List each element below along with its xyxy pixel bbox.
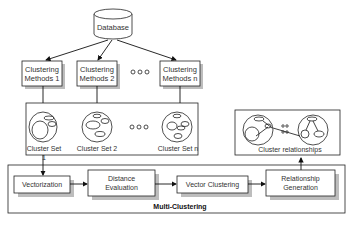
step-distance-evaluation: DistanceEvaluation bbox=[88, 174, 155, 192]
cluster-set-n-label: Cluster Set n bbox=[156, 144, 200, 153]
cluster-set-1-label: Cluster Set 1 bbox=[24, 144, 64, 162]
step-relationship-generation: RelationshipGeneration bbox=[266, 174, 335, 192]
method-2-label: ClusteringMethods 2 bbox=[77, 65, 117, 83]
method-1-label: ClusteringMethods 1 bbox=[22, 65, 62, 83]
db-arrows bbox=[46, 40, 176, 60]
cluster-set-2-label: Cluster Set 2 bbox=[74, 144, 120, 153]
step-vectorization: Vectorization bbox=[14, 180, 70, 189]
step-vector-clustering: Vector Clustering bbox=[177, 180, 248, 189]
multi-clustering-title: Multi-Clustering bbox=[140, 202, 220, 211]
method-n-label: ClusteringMethods n bbox=[160, 65, 200, 83]
database-label: Database bbox=[94, 23, 132, 32]
relationships-label: Cluster relationships bbox=[250, 145, 330, 154]
